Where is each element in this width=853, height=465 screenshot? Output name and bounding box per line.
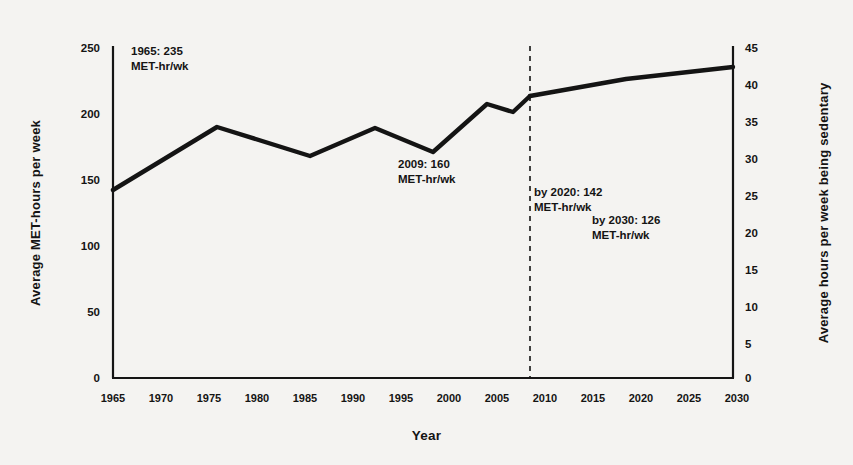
annotation-2030: by 2030: 126 MET-hr/wk: [592, 213, 660, 242]
chart-container: Average MET-hours per week Average hours…: [0, 0, 853, 465]
annotation-2009: 2009: 160 MET-hr/wk: [398, 157, 456, 186]
trend-line-observed: [113, 96, 530, 190]
trend-line-projected: [530, 67, 733, 96]
plot-area: [0, 0, 853, 465]
annotation-1965: 1965: 235 MET-hr/wk: [131, 44, 189, 73]
annotation-2020: by 2020: 142 MET-hr/wk: [534, 185, 602, 214]
